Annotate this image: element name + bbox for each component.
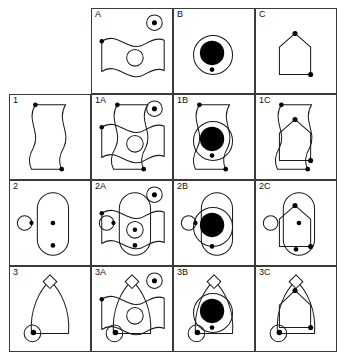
- cell-1[interactable]: 1: [9, 94, 91, 180]
- shape-wavy-horizontal-band: [92, 9, 172, 93]
- puzzle-grid: A B C: [9, 8, 337, 351]
- cell-r0c0: [9, 8, 91, 94]
- shape-overlay-arch-and-pentagon: [256, 267, 336, 351]
- shape-circle-with-filled-core: [174, 9, 254, 93]
- cell-1A[interactable]: 1A: [91, 94, 173, 180]
- cell-1B[interactable]: 1B: [173, 94, 255, 180]
- cell-2[interactable]: 2: [9, 180, 91, 266]
- cell-3A[interactable]: 3A: [91, 266, 173, 352]
- cell-3B[interactable]: 3B: [173, 266, 255, 352]
- shape-overlay-arch-and-circle: [174, 267, 254, 351]
- cell-2C[interactable]: 2C: [255, 180, 337, 266]
- shape-capsule: [10, 181, 90, 265]
- cell-A[interactable]: A: [91, 8, 173, 94]
- shape-overlay-capsule-and-pentagon: [256, 181, 336, 265]
- cell-1C[interactable]: 1C: [255, 94, 337, 180]
- cell-B[interactable]: B: [173, 8, 255, 94]
- shape-overlay-vertical-band-and-pentagon: [256, 95, 336, 179]
- cell-C[interactable]: C: [255, 8, 337, 94]
- shape-wavy-vertical-band: [10, 95, 90, 179]
- shape-overlay-vertical-and-horizontal-bands: [92, 95, 172, 179]
- cell-3C[interactable]: 3C: [255, 266, 337, 352]
- matrix-puzzle-figure: A B C: [0, 0, 344, 357]
- shape-overlay-capsule-and-circle: [174, 181, 254, 265]
- shape-overlay-capsule-and-horizontal-band: [92, 181, 172, 265]
- shape-pointed-arch: [10, 267, 90, 351]
- shape-overlay-arch-and-horizontal-band: [92, 267, 172, 351]
- shape-overlay-vertical-band-and-circle: [174, 95, 254, 179]
- cell-2B[interactable]: 2B: [173, 180, 255, 266]
- cell-2A[interactable]: 2A: [91, 180, 173, 266]
- shape-house-pentagon: [256, 9, 336, 93]
- cell-3[interactable]: 3: [9, 266, 91, 352]
